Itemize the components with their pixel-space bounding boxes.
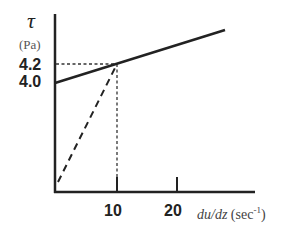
x-tick-label-20: 20: [164, 202, 182, 220]
x-tick-label-10: 10: [104, 202, 122, 220]
series-flow-curve: [55, 30, 225, 83]
y-axis-symbol: τ: [27, 8, 35, 34]
y-tick-4-2: 4.2: [19, 56, 41, 74]
x-axis-name: du/dz: [197, 207, 227, 222]
chart-canvas: [0, 0, 297, 230]
y-tick-4-0: 4.0: [19, 73, 41, 91]
x-axis-label: du/dz (sec-1): [197, 205, 266, 223]
y-axis-unit: (Pa): [19, 37, 41, 53]
x-axis-unit-exponent: -1: [253, 205, 261, 215]
series-secant-dashed: [58, 68, 115, 182]
x-axis-unit-close: ): [261, 207, 266, 222]
x-axis-unit: (sec: [231, 207, 254, 222]
